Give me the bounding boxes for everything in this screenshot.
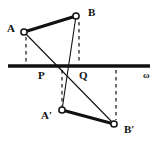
figure-canvas — [0, 0, 156, 141]
axis-end-mark: ω — [143, 71, 150, 80]
vertex-marker-aprime — [59, 107, 65, 113]
segment-ab — [24, 16, 76, 32]
segment-aprime-bprime — [62, 110, 114, 124]
label-p: P — [38, 70, 45, 81]
segment-b-aprime — [62, 16, 76, 110]
label-q: Q — [79, 70, 88, 81]
label-aprime: A′ — [41, 110, 52, 121]
vertex-marker-b — [73, 13, 79, 19]
vertex-marker-bprime — [111, 121, 117, 127]
vertex-marker-a — [21, 29, 27, 35]
geometry-figure: A B A′ B′ P Q ω — [0, 0, 156, 141]
label-a: A — [7, 23, 15, 34]
label-bprime: B′ — [124, 124, 134, 135]
label-b: B — [88, 7, 95, 18]
